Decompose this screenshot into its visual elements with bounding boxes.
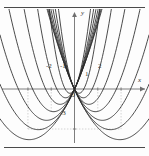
xtick-label-1: 1 [85, 71, 89, 78]
origin-label: O [70, 92, 75, 99]
axis-label-y: y [81, 10, 84, 17]
parabola-family-plot [0, 9, 149, 145]
xtick-label--2: -2 [46, 63, 52, 70]
parabola-curve-p7 [48, 9, 91, 93]
xtick-label--1: -1 [60, 63, 66, 70]
top-divider-rule [4, 7, 145, 8]
axis-label-x: x [138, 77, 141, 84]
y-axis-arrowhead [72, 12, 77, 17]
plot-svg [0, 9, 149, 145]
xtick-label-2: 2 [98, 63, 102, 70]
parabola-curve-p8 [58, 9, 101, 93]
ytick-label--3: -3 [60, 110, 66, 117]
bottom-divider-rule [4, 147, 145, 148]
figure-page: y x O -2 -1 1 2 -3 [0, 0, 149, 156]
x-axis-arrowhead [140, 87, 145, 92]
